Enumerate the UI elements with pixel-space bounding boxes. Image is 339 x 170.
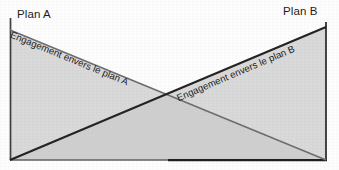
plan-a-label: Plan A <box>17 8 51 20</box>
engagement-crossover-diagram: Plan A Plan B Engagement envers le plan … <box>0 0 339 170</box>
plan-b-label: Plan B <box>283 5 317 17</box>
diagram-canvas <box>0 0 339 170</box>
